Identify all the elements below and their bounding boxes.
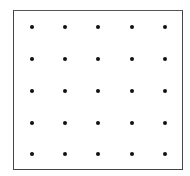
grid-dot [63,25,67,29]
grid-dot [96,152,100,156]
grid-dot [30,121,34,125]
grid-dot [163,25,167,29]
grid-dot [63,89,67,93]
grid-dot [163,57,167,61]
grid-dot [30,89,34,93]
grid-dot [163,152,167,156]
grid-dot [96,89,100,93]
grid-dot [163,89,167,93]
grid-dot [130,152,134,156]
grid-dot [30,57,34,61]
grid-dot [96,121,100,125]
grid-dot [130,57,134,61]
grid-dot [63,57,67,61]
grid-dot [163,121,167,125]
grid-dot [130,121,134,125]
grid-dot [63,152,67,156]
grid-dot [96,25,100,29]
grid-dot [30,152,34,156]
grid-dot [30,25,34,29]
grid-dot [130,89,134,93]
grid-dot [63,121,67,125]
grid-dot [96,57,100,61]
grid-dot [130,25,134,29]
